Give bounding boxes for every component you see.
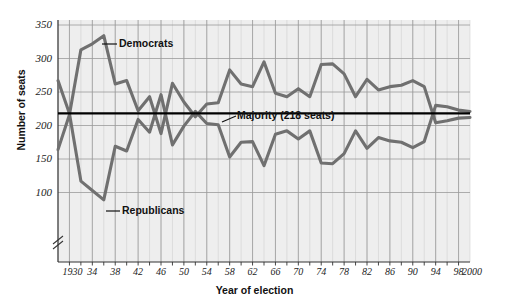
series-label-republicans: Republicans [122, 204, 184, 216]
plot-area [0, 0, 509, 303]
majority-line-label: Majority (218 seats) [237, 109, 334, 121]
series-label-democrats: Democrats [119, 37, 173, 49]
chart-figure: Number of seats Year of election 3503002… [0, 0, 509, 303]
